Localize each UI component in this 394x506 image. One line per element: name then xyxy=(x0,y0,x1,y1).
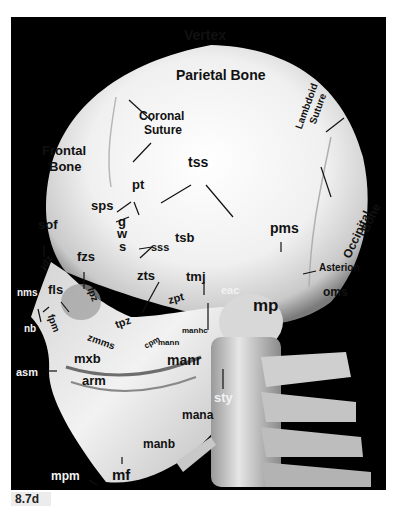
label-s: s xyxy=(119,240,126,253)
label-asterion: Asterion xyxy=(319,263,360,273)
label-mxb: mxb xyxy=(74,352,101,365)
label-mana: mana xyxy=(182,409,213,421)
label-tmj: tmj xyxy=(186,270,206,283)
label-frontal-bone-line1: Frontal xyxy=(42,144,86,157)
label-sty: sty xyxy=(214,391,233,404)
label-sps: sps xyxy=(91,199,113,212)
label-nms: nms xyxy=(17,288,38,298)
label-nb: nb xyxy=(24,324,36,334)
label-arm: arm xyxy=(82,374,106,387)
label-zts: zts xyxy=(137,269,155,282)
skull-lateral-3d-render: Vertex Parietal Bone Coronal Suture Fron… xyxy=(11,17,386,490)
label-sss: sss xyxy=(151,242,169,253)
label-frontal-bone-line2: Bone xyxy=(49,160,82,173)
label-tsb: tsb xyxy=(175,231,195,244)
label-vertex: Vertex xyxy=(184,28,226,42)
label-fzs: fzs xyxy=(77,250,95,263)
figure-caption: 8.7d xyxy=(11,492,51,506)
label-manr: manr xyxy=(167,353,201,367)
label-coronal-suture-line2: Suture xyxy=(144,124,182,136)
label-asm: asm xyxy=(16,367,38,378)
label-manb: manb xyxy=(143,438,175,450)
label-mf: mf xyxy=(112,467,130,482)
label-fls: fls xyxy=(48,283,63,296)
label-pms: pms xyxy=(270,221,299,235)
label-sof: sof xyxy=(38,218,58,231)
label-coronal-suture-line1: Coronal xyxy=(139,110,184,122)
label-pt: pt xyxy=(132,178,144,191)
label-eac: eac xyxy=(221,285,239,296)
label-mp: mp xyxy=(253,297,279,314)
figure-number: 8.7d xyxy=(15,492,39,506)
label-oms: oms xyxy=(323,286,348,298)
label-mpm: mpm xyxy=(51,470,80,482)
label-parietal-bone: Parietal Bone xyxy=(176,68,265,82)
label-tss: tss xyxy=(188,155,208,169)
label-mann: mann xyxy=(158,339,179,347)
label-manhc: manhc xyxy=(182,327,208,335)
